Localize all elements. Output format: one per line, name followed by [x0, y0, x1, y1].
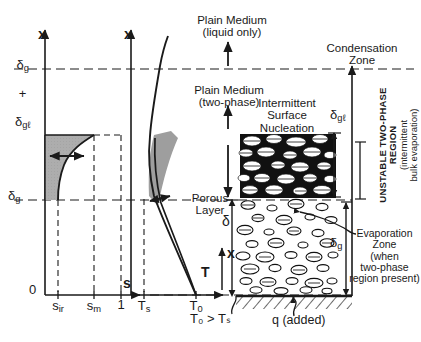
dimension-unstable-region: [355, 142, 366, 199]
delta-g-axis-label: δg: [8, 189, 20, 204]
heat-flux-label: q (added): [272, 314, 326, 328]
temperature-inequality-label: T₀ > Tₛ: [190, 312, 231, 326]
tick-label-Ts: Ts: [131, 299, 157, 314]
origin-label: 0: [29, 283, 36, 297]
intermittent-surface-nucleation-label: IntermittentSurfaceNucleation: [240, 97, 334, 134]
delta-gl-dimension-label: δgℓ: [330, 108, 345, 123]
temperature-chart: [131, 30, 223, 299]
temperature-y-axis-label: x: [124, 26, 132, 42]
temperature-x-axis-label: T: [201, 265, 210, 280]
tick-label-one: 1: [112, 298, 130, 312]
unstable-region-label: UNSTABLE TWO-PHASEREGION: [378, 85, 399, 205]
inner-x-label: x: [227, 246, 235, 261]
delta-g-top: δg: [16, 57, 28, 72]
figure-canvas: x δg + δgℓ δg 0 s sir sm 1 x T Ts T0 Pla…: [0, 0, 421, 342]
delta-gl-top: δgℓ: [15, 114, 30, 129]
tick-label-sm: sm: [81, 299, 107, 314]
dense-nucleation-zone: [238, 134, 336, 198]
unstable-region-paren-label: (intermittentbulk evaporation): [399, 85, 420, 205]
delta-g-dimension-label: δg: [330, 236, 342, 251]
plus-sign: +: [19, 86, 27, 101]
delta-g-plus-delta-gl-label: δg + δgℓ: [2, 44, 36, 130]
tick-label-sir: sir: [44, 299, 72, 314]
condensation-zone-label: CondensationZone: [306, 42, 418, 67]
sparse-particle-bed: [236, 199, 338, 294]
plain-medium-liquid-label: Plain Medium(liquid only): [176, 14, 288, 39]
saturation-x-axis-label: s: [123, 276, 131, 291]
saturation-chart: [45, 30, 140, 299]
saturation-y-axis-label: x: [38, 26, 46, 42]
evaporation-zone-label: EvaporationZone(whentwo-phaseregion pres…: [348, 228, 421, 285]
delta-dimension-label: δ: [222, 214, 230, 229]
